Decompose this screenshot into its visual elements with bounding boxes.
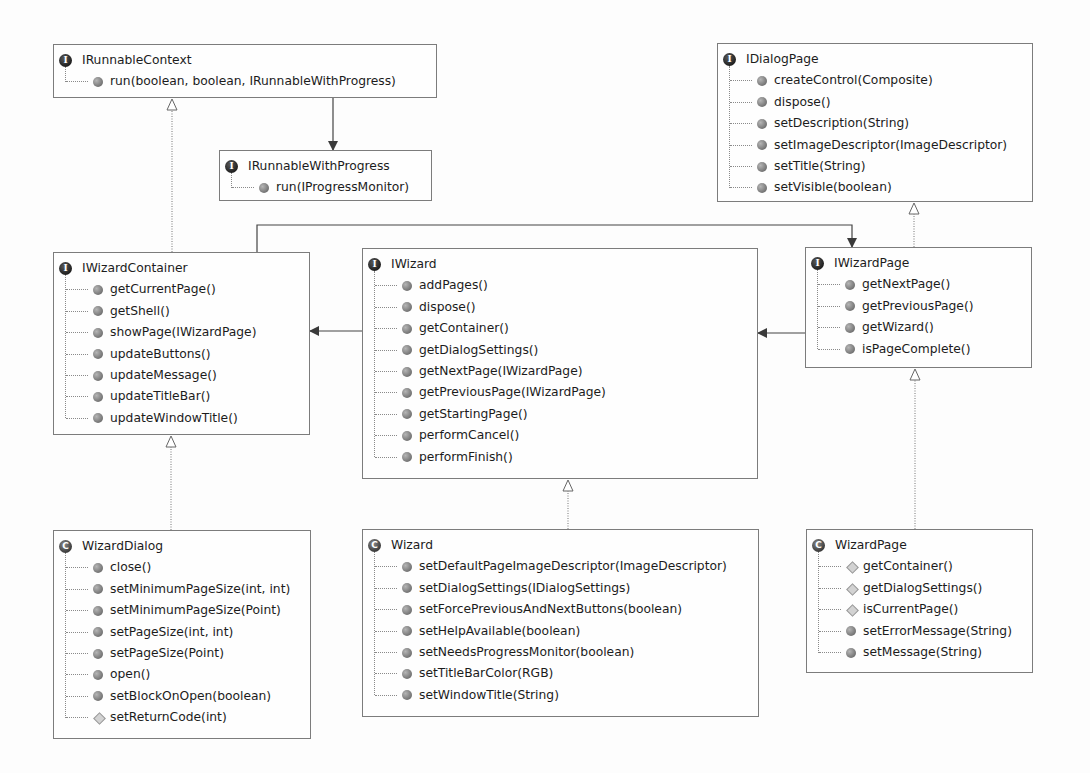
interface-irunnablecontext[interactable]: IIRunnableContextrun(boolean, boolean, I… bbox=[53, 44, 437, 98]
method-item[interactable]: getShell() bbox=[54, 301, 309, 322]
public-method-icon bbox=[402, 281, 412, 291]
public-method-icon bbox=[402, 648, 412, 658]
method-signature: performCancel() bbox=[419, 425, 519, 446]
method-item[interactable]: run(boolean, boolean, IRunnableWithProgr… bbox=[54, 71, 436, 92]
interface-iwizardcontainer[interactable]: IIWizardContainergetCurrentPage()getShel… bbox=[53, 252, 310, 435]
method-item[interactable]: setBlockOnOpen(boolean) bbox=[54, 686, 310, 707]
method-item[interactable]: setHelpAvailable(boolean) bbox=[363, 621, 758, 642]
method-signature: updateTitleBar() bbox=[110, 386, 210, 407]
classifier-title[interactable]: IIWizardContainer bbox=[54, 258, 309, 279]
classifier-name: Wizard bbox=[391, 535, 433, 556]
method-item[interactable]: getPreviousPage(IWizardPage) bbox=[363, 382, 757, 403]
method-signature: updateMessage() bbox=[110, 365, 217, 386]
method-item[interactable]: showPage(IWizardPage) bbox=[54, 322, 309, 343]
method-item[interactable]: isPageComplete() bbox=[806, 339, 1031, 360]
method-signature: setTitle(String) bbox=[774, 156, 865, 177]
method-item[interactable]: setVisible(boolean) bbox=[718, 177, 1032, 198]
classifier-title[interactable]: CWizardPage bbox=[807, 535, 1032, 556]
tree-stub bbox=[375, 414, 397, 415]
classifier-title[interactable]: CWizardDialog bbox=[54, 536, 310, 557]
method-signature: getDialogSettings() bbox=[419, 340, 538, 361]
classifier-title[interactable]: IIWizard bbox=[363, 254, 757, 275]
interface-iwizard[interactable]: IIWizardaddPages()dispose()getContainer(… bbox=[362, 248, 758, 479]
uml-class-diagram: IIRunnableContextrun(boolean, boolean, I… bbox=[0, 0, 1090, 773]
tree-stub bbox=[66, 354, 88, 355]
method-signature: updateWindowTitle() bbox=[110, 408, 238, 429]
method-item[interactable]: setMessage(String) bbox=[807, 642, 1032, 663]
classifier-title[interactable]: IIDialogPage bbox=[718, 49, 1032, 70]
realization-iwizardcontainer-irunnablecontext bbox=[167, 99, 177, 252]
method-item[interactable]: setReturnCode(int) bbox=[54, 707, 310, 728]
method-signature: setMinimumPageSize(Point) bbox=[110, 600, 281, 621]
public-method-icon bbox=[93, 392, 103, 402]
classifier-title[interactable]: CWizard bbox=[363, 535, 758, 556]
method-item[interactable]: updateWindowTitle() bbox=[54, 408, 309, 429]
classifier-name: WizardPage bbox=[835, 535, 907, 556]
method-item[interactable]: getContainer() bbox=[807, 556, 1032, 577]
method-item[interactable]: updateButtons() bbox=[54, 344, 309, 365]
interface-irunnablewithprogress[interactable]: IIRunnableWithProgressrun(IProgressMonit… bbox=[219, 150, 432, 201]
class-wizard[interactable]: CWizardsetDefaultPageImageDescriptor(Ima… bbox=[362, 529, 759, 717]
method-item[interactable]: getStartingPage() bbox=[363, 404, 757, 425]
method-item[interactable]: performCancel() bbox=[363, 425, 757, 446]
interface-iwizardpage[interactable]: IIWizardPagegetNextPage()getPreviousPage… bbox=[805, 247, 1032, 368]
public-method-icon bbox=[93, 413, 103, 423]
method-item[interactable]: setDefaultPageImageDescriptor(ImageDescr… bbox=[363, 556, 758, 577]
method-item[interactable]: setImageDescriptor(ImageDescriptor) bbox=[718, 135, 1032, 156]
method-item[interactable]: run(IProgressMonitor) bbox=[220, 177, 431, 198]
interface-idialogpage[interactable]: IIDialogPagecreateControl(Composite)disp… bbox=[717, 43, 1033, 202]
classifier-title[interactable]: IIRunnableContext bbox=[54, 50, 436, 71]
method-item[interactable]: setErrorMessage(String) bbox=[807, 621, 1032, 642]
method-item[interactable]: addPages() bbox=[363, 275, 757, 296]
class-icon: C bbox=[368, 539, 381, 552]
public-method-icon bbox=[402, 562, 412, 572]
method-signature: setPageSize(Point) bbox=[110, 643, 224, 664]
tree-stub bbox=[819, 588, 841, 589]
interface-icon: I bbox=[59, 262, 72, 275]
method-item[interactable]: setDescription(String) bbox=[718, 113, 1032, 134]
tree-stub bbox=[375, 371, 397, 372]
method-item[interactable]: isCurrentPage() bbox=[807, 599, 1032, 620]
method-item[interactable]: setPageSize(int, int) bbox=[54, 622, 310, 643]
method-item[interactable]: getContainer() bbox=[363, 318, 757, 339]
method-item[interactable]: getDialogSettings() bbox=[807, 578, 1032, 599]
classifier-title[interactable]: IIRunnableWithProgress bbox=[220, 156, 431, 177]
method-signature: setImageDescriptor(ImageDescriptor) bbox=[774, 135, 1007, 156]
method-item[interactable]: getNextPage(IWizardPage) bbox=[363, 361, 757, 382]
method-item[interactable]: updateTitleBar() bbox=[54, 386, 309, 407]
method-item[interactable]: getPreviousPage() bbox=[806, 296, 1031, 317]
method-item[interactable]: getCurrentPage() bbox=[54, 279, 309, 300]
method-item[interactable]: setNeedsProgressMonitor(boolean) bbox=[363, 642, 758, 663]
method-item[interactable]: dispose() bbox=[363, 297, 757, 318]
method-item[interactable]: updateMessage() bbox=[54, 365, 309, 386]
method-item[interactable]: getDialogSettings() bbox=[363, 340, 757, 361]
method-signature: getContainer() bbox=[863, 556, 953, 577]
method-signature: createControl(Composite) bbox=[774, 70, 933, 91]
public-method-icon bbox=[93, 606, 103, 616]
method-item[interactable]: setForcePreviousAndNextButtons(boolean) bbox=[363, 599, 758, 620]
class-wizardpage[interactable]: CWizardPagegetContainer()getDialogSettin… bbox=[806, 529, 1033, 673]
interface-icon: I bbox=[59, 54, 72, 67]
method-item[interactable]: createControl(Composite) bbox=[718, 70, 1032, 91]
tree-stub bbox=[375, 392, 397, 393]
classifier-title[interactable]: IIWizardPage bbox=[806, 253, 1031, 274]
tree-stub bbox=[66, 674, 88, 675]
class-wizarddialog[interactable]: CWizardDialogclose()setMinimumPageSize(i… bbox=[53, 530, 311, 739]
method-item[interactable]: setDialogSettings(IDialogSettings) bbox=[363, 578, 758, 599]
protected-method-icon bbox=[846, 583, 859, 596]
method-item[interactable]: close() bbox=[54, 557, 310, 578]
method-item[interactable]: setTitleBarColor(RGB) bbox=[363, 663, 758, 684]
method-item[interactable]: dispose() bbox=[718, 92, 1032, 113]
method-item[interactable]: setPageSize(Point) bbox=[54, 643, 310, 664]
method-item[interactable]: open() bbox=[54, 664, 310, 685]
method-item[interactable]: setMinimumPageSize(Point) bbox=[54, 600, 310, 621]
method-item[interactable]: setWindowTitle(String) bbox=[363, 685, 758, 706]
method-signature: setBlockOnOpen(boolean) bbox=[110, 686, 271, 707]
method-item[interactable]: setMinimumPageSize(int, int) bbox=[54, 579, 310, 600]
method-item[interactable]: getNextPage() bbox=[806, 274, 1031, 295]
method-item[interactable]: performFinish() bbox=[363, 447, 757, 468]
tree-stub bbox=[66, 396, 88, 397]
method-item[interactable]: getWizard() bbox=[806, 317, 1031, 338]
method-item[interactable]: setTitle(String) bbox=[718, 156, 1032, 177]
tree-stub bbox=[375, 673, 397, 674]
